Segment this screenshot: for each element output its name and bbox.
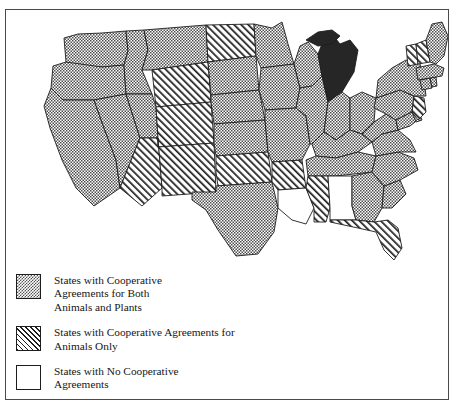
state-wyoming [152, 62, 211, 107]
legend-label-none: States with No Cooperative Agreements [54, 364, 179, 392]
state-colorado [156, 102, 214, 147]
state-minnesota [254, 22, 294, 68]
state-texas [192, 182, 278, 256]
state-oklahoma [216, 152, 272, 186]
state-arkansas [272, 160, 306, 190]
us-choropleth-map [6, 10, 448, 268]
legend-swatch-both [16, 274, 41, 299]
legend-label-both: States with Cooperative Agreements for B… [54, 273, 162, 314]
legend-item-both: States with Cooperative Agreements for B… [16, 273, 436, 314]
state-washington [64, 31, 128, 67]
state-maine [426, 22, 448, 64]
state-oregon [51, 62, 126, 100]
state-south-dakota [208, 56, 259, 95]
legend-item-animals-only: States with Cooperative Agreements for A… [16, 325, 436, 353]
legend-swatch-none [16, 365, 41, 390]
state-missouri [265, 108, 310, 162]
state-iowa [259, 64, 300, 110]
state-florida [330, 220, 402, 260]
state-nebraska [211, 90, 265, 124]
map-figure-frame: States with Cooperative Agreements for B… [5, 9, 449, 400]
legend-label-animals-only: States with Cooperative Agreements for A… [54, 325, 235, 353]
state-new-mexico [158, 138, 216, 196]
state-kansas [214, 120, 268, 156]
map-legend: States with Cooperative Agreements for B… [16, 273, 436, 400]
legend-swatch-animals-only [16, 326, 41, 351]
legend-item-none: States with No Cooperative Agreements [16, 364, 436, 392]
state-north-dakota [206, 24, 256, 62]
